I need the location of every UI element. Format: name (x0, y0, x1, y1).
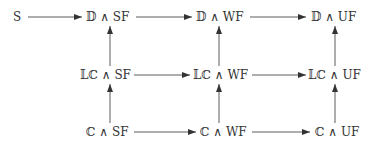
node-d-sf: 𝔻 ∧ SF (86, 10, 129, 24)
node-lc-uf: 𝕃ℂ ∧ UF (308, 68, 361, 82)
node-d-uf: 𝔻 ∧ UF (311, 10, 356, 24)
node-c-wf: ℂ ∧ WF (200, 125, 247, 139)
node-lc-wf: 𝕃ℂ ∧ WF (193, 68, 248, 82)
node-c-uf: ℂ ∧ UF (315, 125, 359, 139)
node-lc-sf: 𝕃ℂ ∧ SF (80, 68, 131, 82)
node-s: S (13, 10, 21, 24)
node-c-sf: ℂ ∧ SF (86, 125, 129, 139)
node-d-wf: 𝔻 ∧ WF (196, 10, 243, 24)
